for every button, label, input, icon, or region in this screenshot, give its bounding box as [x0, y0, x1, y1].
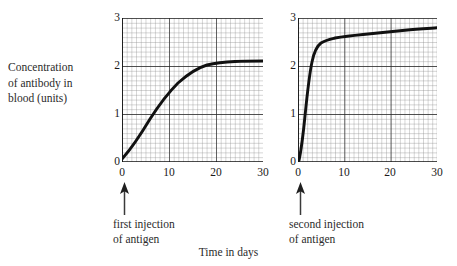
- right-ytick-1: 1: [280, 107, 296, 119]
- right-caption-line-1: second injection: [289, 217, 364, 232]
- right-xtick-30: 30: [426, 166, 448, 178]
- right-injection-arrow-icon: [294, 182, 307, 215]
- x-axis-label: Time in days: [0, 246, 457, 258]
- right-major-gridlines: [298, 18, 437, 162]
- right-ytick-3: 3: [280, 11, 296, 23]
- right-plot-area: [298, 18, 437, 162]
- right-xtick-0: 0: [287, 166, 309, 178]
- right-xtick-10: 10: [333, 166, 355, 178]
- right-ytick-2: 2: [280, 59, 296, 71]
- right-plot-svg: [298, 18, 437, 162]
- right-xtick-20: 20: [379, 166, 401, 178]
- right-chart-panel: 3 2 1 0 0 10 20 30 second injection of a…: [0, 0, 457, 266]
- right-caption-line-2: of antigen: [289, 232, 335, 247]
